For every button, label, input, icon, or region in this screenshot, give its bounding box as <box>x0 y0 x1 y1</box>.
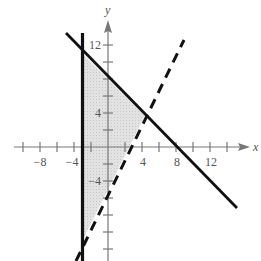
y-axis-label: y <box>104 3 111 17</box>
x-tick-label: 4 <box>140 155 146 169</box>
inequality-graph: x y −8 −4 4 8 12 12 4 −4 <box>0 0 261 261</box>
x-tick-label: 12 <box>205 155 217 169</box>
x-tick-label: −8 <box>34 155 47 169</box>
y-tick-label: −4 <box>88 174 101 188</box>
y-tick-label: 12 <box>89 38 101 52</box>
x-tick-label: 8 <box>174 155 180 169</box>
x-tick-label: −4 <box>66 155 79 169</box>
x-axis-label: x <box>252 140 259 154</box>
y-tick-label: 4 <box>95 106 101 120</box>
